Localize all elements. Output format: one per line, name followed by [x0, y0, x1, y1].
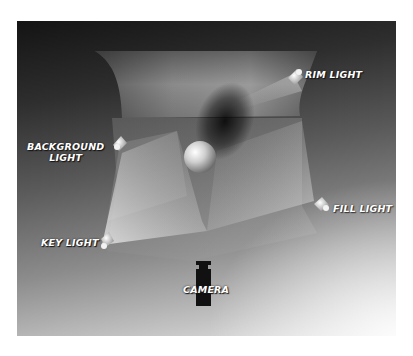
camera-label: CAMERA	[183, 284, 229, 295]
key-light-label: KEY LIGHT	[41, 237, 99, 248]
rim-light-label: RIM LIGHT	[305, 69, 362, 80]
subject-sphere	[184, 141, 216, 173]
background-light-label-line1: BACKGROUND	[27, 141, 104, 152]
background-light-label: BACKGROUND LIGHT	[27, 141, 104, 163]
fill-light-label: FILL LIGHT	[333, 203, 392, 214]
background-light-label-line2: LIGHT	[27, 152, 104, 163]
lighting-diagram: RIM LIGHT BACKGROUND LIGHT FILL LIGHT KE…	[17, 21, 396, 336]
fill-light-icon	[314, 197, 329, 211]
